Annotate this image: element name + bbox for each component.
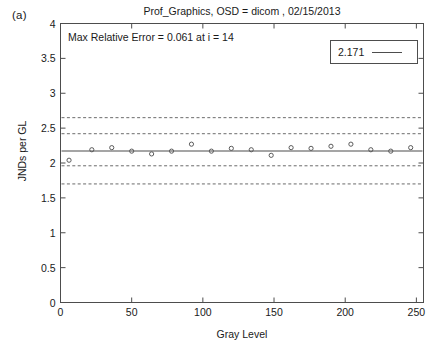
y-axis-label: JNDs per GL xyxy=(16,96,28,206)
legend-value-label: 2.171 xyxy=(338,46,364,58)
data-point xyxy=(409,146,413,150)
legend-line-sample xyxy=(372,52,402,53)
chart-title: Prof_Graphics, OSD = dicom , 02/15/2013 xyxy=(60,5,424,17)
max-relative-error-annotation: Max Relative Error = 0.061 at i = 14 xyxy=(68,31,234,43)
data-point xyxy=(289,146,293,150)
data-point xyxy=(229,146,233,150)
data-point xyxy=(329,144,333,148)
data-point xyxy=(67,158,71,162)
panel-label: (a) xyxy=(12,9,27,21)
plot-frame xyxy=(61,24,424,303)
x-axis-label: Gray Level xyxy=(60,328,424,340)
data-point xyxy=(349,142,353,146)
figure-panel: (a) Prof_Graphics, OSD = dicom , 02/15/2… xyxy=(0,0,434,349)
data-point xyxy=(189,142,193,146)
data-point xyxy=(150,152,154,156)
legend-box: 2.171 xyxy=(330,40,418,64)
data-point xyxy=(269,153,273,157)
data-point xyxy=(309,146,313,150)
data-point xyxy=(110,146,114,150)
